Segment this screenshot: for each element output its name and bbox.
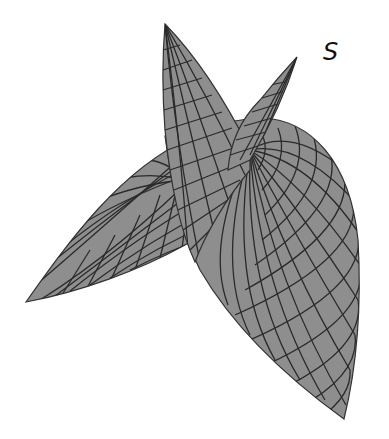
surface-label: S bbox=[323, 40, 338, 64]
